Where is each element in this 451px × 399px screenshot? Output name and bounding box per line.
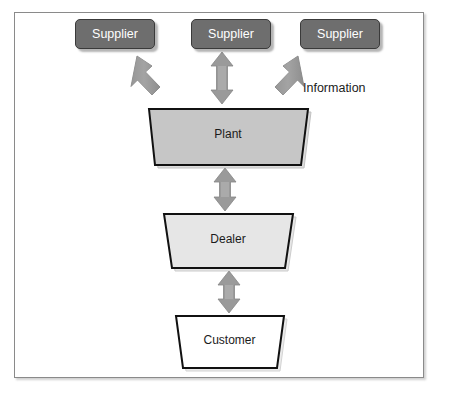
arrow-supplier-2-to-plant: [211, 52, 233, 104]
node-supplier-3[interactable]: Supplier: [300, 19, 380, 49]
node-customer[interactable]: Customer: [172, 313, 287, 371]
arrow-plant-to-dealer: [214, 168, 236, 211]
node-dealer[interactable]: Dealer: [160, 211, 296, 271]
arrow-supplier-1-to-plant: [131, 56, 160, 95]
arrow-supplier-3-to-plant: [275, 56, 304, 95]
node-supplier-3-label: Supplier: [301, 28, 379, 41]
diagram-canvas: Supplier Supplier Supplier Plant Dealer …: [0, 0, 451, 399]
node-supplier-2[interactable]: Supplier: [191, 19, 271, 49]
node-plant[interactable]: Plant: [145, 106, 311, 168]
node-supplier-2-label: Supplier: [192, 28, 270, 41]
node-supplier-1-label: Supplier: [76, 28, 154, 41]
node-supplier-1[interactable]: Supplier: [75, 19, 155, 49]
information-annotation: Information: [303, 81, 366, 95]
arrow-dealer-to-customer: [218, 271, 240, 313]
